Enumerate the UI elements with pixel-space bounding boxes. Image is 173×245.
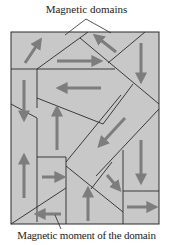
- domain-diagram: [0, 0, 173, 245]
- magnetic-moment-label: Magnetic moment of the domain: [0, 229, 173, 241]
